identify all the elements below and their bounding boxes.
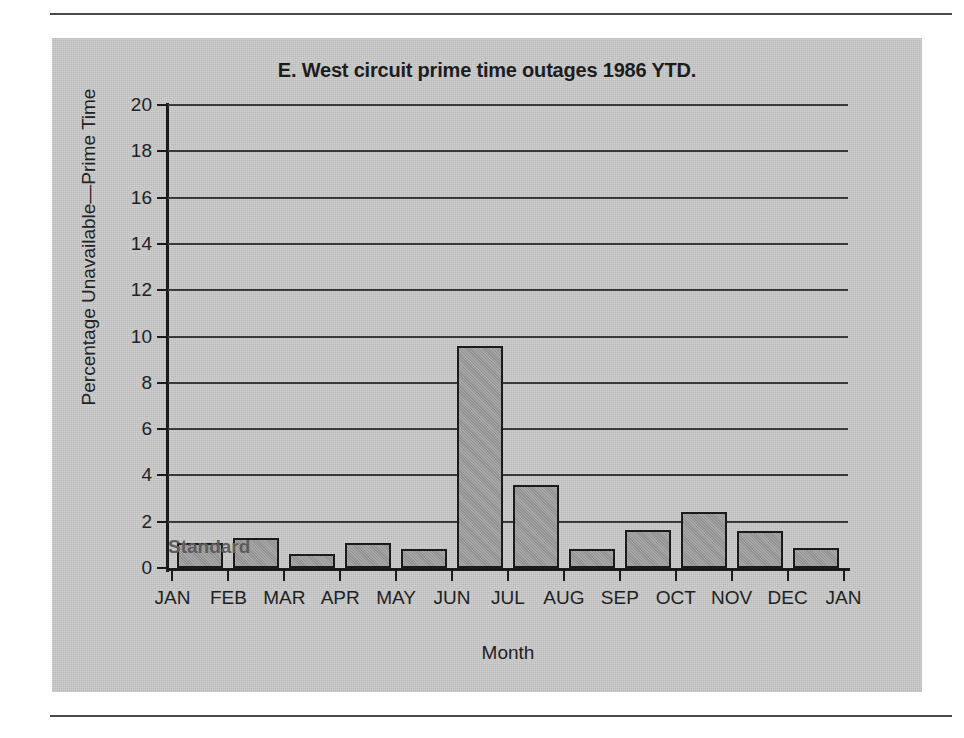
gridline	[168, 428, 848, 430]
y-axis-tick-label: 6	[112, 418, 152, 440]
x-axis-tick-mark	[563, 568, 565, 581]
chart-figure-panel: E. West circuit prime time outages 1986 …	[52, 38, 922, 692]
bar-nov-10[interactable]	[737, 531, 783, 568]
y-axis-tick-mark	[157, 336, 168, 338]
plot-area: 02468101214161820 JANFEBMARAPRMAYJUNJULA…	[168, 105, 848, 568]
y-axis-tick-mark	[157, 150, 168, 152]
x-axis-tick-mark	[451, 568, 453, 581]
bar-dec-11[interactable]	[793, 548, 839, 568]
x-axis-tick-mark	[731, 568, 733, 581]
y-axis-tick-mark	[157, 521, 168, 523]
gridline	[168, 382, 848, 384]
x-axis-tick-mark	[171, 568, 173, 581]
y-axis-tick-mark	[157, 428, 168, 430]
gridline	[168, 150, 848, 152]
y-axis-tick-label: 12	[112, 279, 152, 301]
y-axis-tick-mark	[157, 567, 168, 569]
bar-sep-8[interactable]	[625, 530, 671, 568]
x-axis-tick-mark	[283, 568, 285, 581]
y-axis-tick-label: 2	[112, 511, 152, 533]
y-axis-line	[166, 103, 169, 572]
y-axis-tick-label: 0	[112, 557, 152, 579]
gridline	[168, 474, 848, 476]
y-axis-tick-mark	[157, 382, 168, 384]
top-horizontal-rule	[50, 13, 952, 15]
y-axis-tick-mark	[157, 289, 168, 291]
gridline	[168, 521, 848, 523]
bar-aug-7[interactable]	[569, 549, 615, 568]
x-axis-tick-mark	[675, 568, 677, 581]
y-axis-tick-label: 4	[112, 464, 152, 486]
y-axis-tick-label: 18	[112, 140, 152, 162]
y-axis-tick-label: 14	[112, 233, 152, 255]
x-axis-tick-mark	[227, 568, 229, 581]
gridline	[168, 243, 848, 245]
gridline	[168, 336, 848, 338]
bar-apr-3[interactable]	[345, 543, 391, 568]
bar-mar-2[interactable]	[289, 554, 335, 568]
y-axis-tick-label: 20	[112, 94, 152, 116]
gridline	[168, 104, 848, 106]
x-axis-tick-mark	[339, 568, 341, 581]
bar-jun-5[interactable]	[457, 346, 503, 568]
y-axis-title: Percentage Unavailable—Prime Time	[78, 37, 100, 457]
chart-title: E. West circuit prime time outages 1986 …	[52, 59, 922, 82]
bar-oct-9[interactable]	[681, 512, 727, 568]
y-axis-tick-label: 10	[112, 326, 152, 348]
x-axis-tick-mark	[395, 568, 397, 581]
x-axis-tick-mark	[507, 568, 509, 581]
y-axis-tick-label: 8	[112, 372, 152, 394]
bottom-horizontal-rule	[50, 715, 952, 717]
y-axis-tick-mark	[157, 243, 168, 245]
x-axis-tick-mark	[619, 568, 621, 581]
y-axis-tick-mark	[157, 197, 168, 199]
y-axis-tick-mark	[157, 104, 168, 106]
x-axis-title: Month	[168, 642, 848, 664]
bar-jul-6[interactable]	[513, 485, 559, 568]
x-axis-tick-mark	[787, 568, 789, 581]
bar-may-4[interactable]	[401, 549, 447, 568]
gridline	[168, 197, 848, 199]
standard-annotation-label: Standard	[168, 536, 250, 558]
gridline	[168, 289, 848, 291]
y-axis-tick-mark	[157, 474, 168, 476]
y-axis-tick-label: 16	[112, 187, 152, 209]
x-axis-tick-label: JAN	[809, 587, 879, 609]
x-axis-tick-mark	[843, 568, 845, 581]
